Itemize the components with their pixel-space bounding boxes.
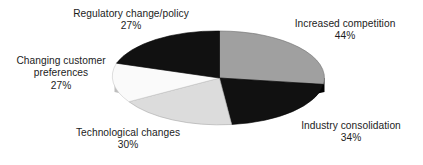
pie-label-changing-customer-preferences: Changing customer preferences 27% — [8, 55, 114, 92]
pie-label-increased-competition: Increased competition 44% — [281, 18, 409, 43]
pie-label-increased-competition-value: 44% — [281, 30, 409, 42]
pie-label-technological-changes: Technological changes 30% — [65, 127, 191, 152]
pie-label-industry-consolidation-value: 34% — [286, 132, 416, 144]
pie-label-regulatory-change-policy-value: 27% — [56, 20, 206, 32]
pie-slices — [112, 31, 324, 125]
pie-label-technological-changes-value: 30% — [65, 139, 191, 151]
pie-label-changing-customer-preferences-name-line1: Changing customer — [8, 55, 114, 67]
pie-label-industry-consolidation: Industry consolidation 34% — [286, 120, 416, 145]
pie-slice-industry-consolidation[interactable] — [220, 78, 324, 125]
pie-label-regulatory-change-policy: Regulatory change/policy 27% — [56, 8, 206, 33]
pie-label-increased-competition-name: Increased competition — [281, 18, 409, 30]
pie-label-regulatory-change-policy-name: Regulatory change/policy — [56, 8, 206, 20]
pie-label-technological-changes-name: Technological changes — [65, 127, 191, 139]
pie-label-industry-consolidation-name: Industry consolidation — [286, 120, 416, 132]
pie-label-changing-customer-preferences-value: 27% — [8, 80, 114, 92]
pie-label-changing-customer-preferences-name-line2: preferences — [8, 67, 114, 79]
pie-chart-figure: Regulatory change/policy 27% Increased c… — [0, 0, 423, 165]
